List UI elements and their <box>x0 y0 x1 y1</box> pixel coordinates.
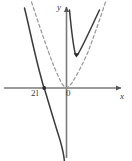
x-intercept-point <box>42 86 46 90</box>
y-axis-label: y <box>57 3 61 12</box>
origin-label: 0 <box>66 89 71 98</box>
x-axis-label: x <box>120 92 124 101</box>
math-figure: y x 0 2l <box>0 0 132 161</box>
dashed-parabola-curve <box>32 2 106 88</box>
vertex-point <box>74 53 80 57</box>
x-root-label: 2l <box>31 89 39 98</box>
figure-canvas <box>0 0 132 161</box>
solid-left-branch-curve <box>25 8 65 161</box>
